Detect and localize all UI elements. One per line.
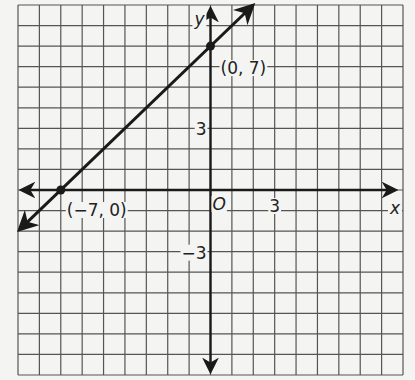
y-tick-label: 3	[196, 119, 207, 139]
coordinate-graph: O33−3xy(0, 7)(−7, 0)	[0, 0, 415, 380]
x-tick-label: 3	[269, 196, 280, 216]
y-axis-label: y	[193, 9, 205, 29]
point-label-neg7-0: (−7, 0)	[67, 200, 127, 220]
x-axis-label: x	[389, 198, 401, 218]
data-point	[206, 42, 215, 51]
point-label-0-7: (0, 7)	[221, 58, 267, 78]
data-point	[56, 186, 65, 195]
y-tick-label: −3	[181, 243, 206, 263]
origin-label: O	[213, 194, 226, 214]
